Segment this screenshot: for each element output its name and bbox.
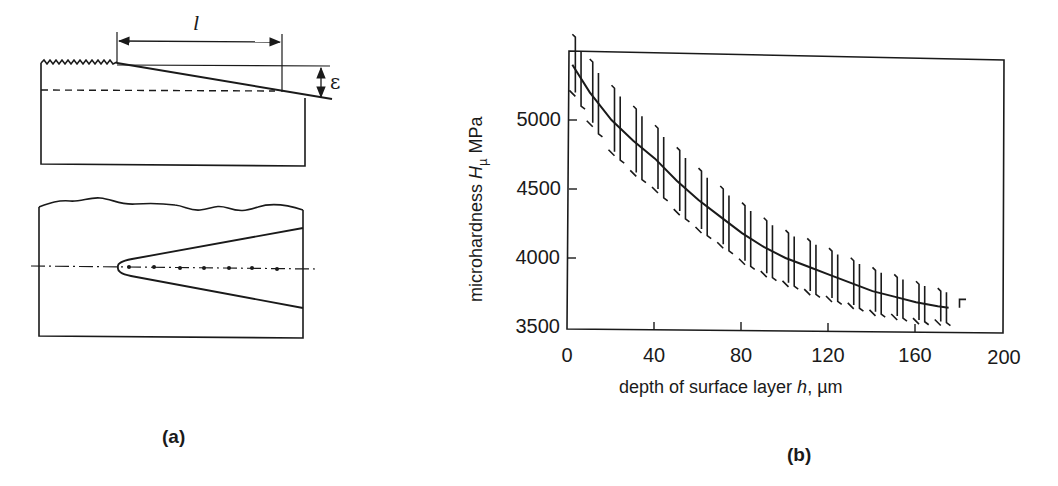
- chart-frame: [567, 51, 1004, 333]
- caption-b: (b): [787, 444, 811, 466]
- y-tick-4500: 4500: [491, 177, 561, 200]
- wavy-surface: [39, 198, 303, 211]
- terminal-mark: [960, 299, 967, 307]
- depth-symbol: ε: [330, 70, 340, 94]
- caption-a: (a): [162, 426, 185, 448]
- serrated-surface: [41, 60, 117, 64]
- panel-a-bottom-diagram: [31, 198, 316, 338]
- y-axis-title: microhardness Hµ MPa: [466, 116, 490, 302]
- figure-canvas: [0, 0, 1058, 486]
- x-tick-160: 160: [885, 344, 945, 367]
- x-tick-0: 0: [537, 344, 597, 367]
- x-tick-40: 40: [624, 344, 684, 367]
- chart-plot-area: [569, 34, 966, 325]
- x-axis-title: depth of surface layer h, µm: [619, 377, 843, 398]
- y-tick-4000: 4000: [490, 246, 560, 269]
- x-tick-120: 120: [798, 344, 858, 367]
- mean-curve: [572, 65, 948, 308]
- length-symbol: l: [193, 10, 199, 36]
- x-tick-200: 200: [974, 346, 1034, 369]
- y-tick-5000: 5000: [491, 108, 561, 131]
- x-tick-80: 80: [711, 344, 771, 367]
- y-axis-ticks: [568, 120, 577, 258]
- panel-a-top-diagram: [41, 32, 332, 166]
- y-tick-3500: 3500: [490, 315, 560, 338]
- centerline: [31, 266, 316, 269]
- length-dimension-arrow: [119, 41, 280, 42]
